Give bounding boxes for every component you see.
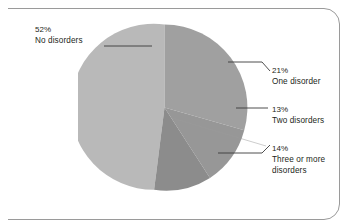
frame-left-crop-mask <box>0 0 8 224</box>
callout-three-or-more-value: 14% <box>272 143 338 154</box>
callout-one-disorder-label: One disorder <box>272 76 321 87</box>
callout-no-disorders-value: 52% <box>35 24 83 35</box>
callout-no-disorders: 52% No disorders <box>35 24 83 46</box>
callout-two-disorders-value: 13% <box>272 104 324 115</box>
callout-two-disorders: 13% Two disorders <box>272 104 324 126</box>
callout-two-disorders-label: Two disorders <box>272 115 324 126</box>
pie-chart <box>78 21 251 194</box>
callout-three-or-more: 14% Three or more disorders <box>272 143 338 177</box>
callout-three-or-more-label: Three or more disorders <box>272 154 338 176</box>
chart-page: 52% No disorders 21% One disorder 13% Tw… <box>0 0 363 224</box>
callout-one-disorder-value: 21% <box>272 65 321 76</box>
callout-no-disorders-label: No disorders <box>35 35 83 46</box>
callout-one-disorder: 21% One disorder <box>272 65 321 87</box>
pie-slice-no-disorders[interactable] <box>78 24 165 190</box>
